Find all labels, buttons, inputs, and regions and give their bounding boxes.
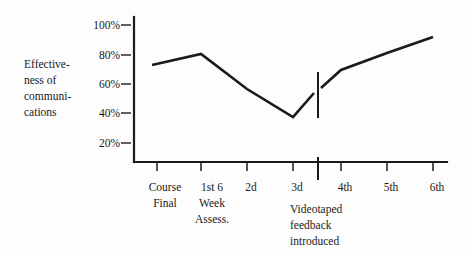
data-line-post-intervention [321,37,433,88]
x-axis-label-course-final: Course Final [149,181,182,209]
y-tick-label-40: 40% [99,107,121,119]
y-axis-ticks: 100% 80% 60% 40% 20% [93,19,131,149]
x-axis-label-5th: 5th [384,181,399,193]
intervention-annotation-line-2: feedback [290,219,332,231]
y-axis-title-line-1: Effective- [24,58,70,70]
y-tick-20: 20% [99,137,131,149]
y-tick-80: 80% [99,49,131,61]
x-axis-label-1st-6-week-assess-line-3: Assess. [195,213,229,225]
x-axis-label-6th: 6th [430,181,445,193]
y-tick-label-100: 100% [93,19,120,31]
y-axis-title: Effective- ness of communi- cations [24,58,71,118]
x-axis-label-2d: 2d [245,181,257,193]
x-axis-label-course-final-line-1: Course [149,181,182,193]
y-tick-60: 60% [99,78,131,90]
y-tick-label-20: 20% [99,137,121,149]
x-axis-ticks [157,162,433,171]
x-axis-label-1st-6-week-assess-line-1: 1st 6 [201,181,223,193]
x-axis-label-1st-6-week-assess-line-2: Week [199,197,225,209]
y-tick-40: 40% [99,107,131,119]
y-axis-title-line-2: ness of [24,74,56,86]
x-axis-label-4th: 4th [338,181,353,193]
y-tick-label-80: 80% [99,49,121,61]
intervention-annotation: Videotaped feedback introduced [290,203,343,247]
y-axis-title-line-4: cations [24,106,57,118]
y-tick-label-60: 60% [99,78,121,90]
y-tick-100: 100% [93,19,131,31]
chart-container: Effective- ness of communi- cations 100%… [0,0,465,255]
data-line-pre-intervention [152,54,314,117]
x-axis-label-course-final-line-2: Final [153,197,177,209]
intervention-annotation-line-1: Videotaped [290,203,343,216]
intervention-annotation-line-3: introduced [290,235,339,247]
y-axis-title-line-3: communi- [24,90,71,102]
effectiveness-of-communications-line-chart: Effective- ness of communi- cations 100%… [0,0,465,255]
x-axis-label-1st-6-week-assess: 1st 6 Week Assess. [195,181,229,225]
x-axis-label-3d: 3d [291,181,303,193]
